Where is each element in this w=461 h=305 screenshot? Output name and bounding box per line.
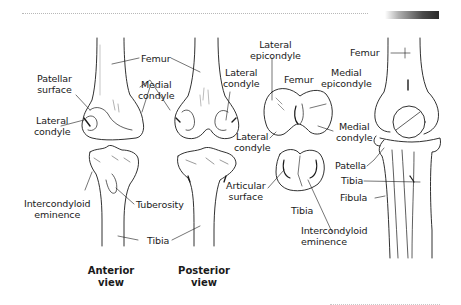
caption-anterior-view: Anterior view	[86, 265, 136, 289]
label-femur-anterior-posterior: Femur	[141, 54, 170, 65]
label-femur-lateral: Femur	[350, 48, 379, 59]
label-patellar-surface: Patellar surface	[37, 74, 72, 95]
label-tibia-lateral: Tibia	[341, 176, 363, 187]
superior-tibia-drawing	[276, 150, 324, 191]
label-lateral-condyle-posterior: Lateral condyle	[223, 68, 260, 89]
bone-illustrations	[0, 0, 461, 305]
label-tibia-anterior-posterior: Tibia	[147, 236, 169, 247]
label-medial-condyle-inferior: Medial condyle	[336, 122, 373, 143]
label-lateral-epicondyle: Lateral epicondyle	[250, 40, 301, 61]
label-patella: Patella	[335, 161, 366, 172]
label-fibula: Fibula	[340, 193, 367, 204]
caption-posterior-view: Posterior view	[176, 265, 232, 289]
anterior-femur-drawing	[82, 38, 144, 140]
label-tuberosity: Tuberosity	[136, 200, 184, 211]
label-lateral-condyle-inferior: Lateral condyle	[234, 132, 271, 153]
label-medial-epicondyle: Medial epicondyle	[321, 68, 372, 89]
label-medial-condyle-anterior: Medial condyle	[138, 80, 175, 101]
anterior-tibia-drawing	[89, 145, 138, 246]
label-intercondyloid-eminence-superior: Intercondyloid eminence	[301, 226, 368, 247]
label-femur-inferior: Femur	[284, 75, 313, 86]
knee-anatomy-figure: Femur Patellar surface Medial condyle La…	[0, 0, 461, 305]
label-intercondyloid-eminence-anterior: Intercondyloid eminence	[24, 199, 91, 220]
label-tibia-superior: Tibia	[291, 206, 313, 217]
inferior-femur-drawing	[264, 89, 332, 136]
label-articular-surface: Articular surface	[226, 181, 265, 202]
label-lateral-condyle-anterior: Lateral condyle	[34, 116, 71, 137]
